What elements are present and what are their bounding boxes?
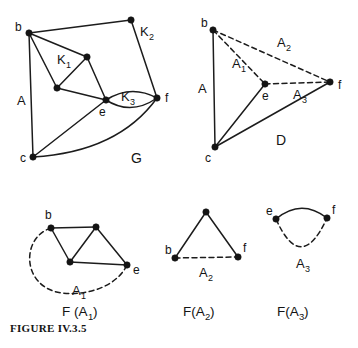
svg-text:): ) — [93, 304, 98, 319]
svg-text:1: 1 — [66, 60, 71, 70]
edge-b-c — [29, 33, 33, 157]
edge-b-k2top — [29, 20, 131, 33]
region-label-a1-fa1: A 1 — [72, 283, 86, 301]
svg-text:A: A — [296, 256, 305, 271]
panel-label-d: D — [276, 132, 286, 148]
vertex-fa1-e — [124, 262, 130, 268]
region-label-a2-fa2: A 2 — [199, 265, 213, 283]
svg-text:3: 3 — [130, 97, 135, 107]
vertex-d-e — [262, 81, 268, 87]
svg-text:F(A: F(A — [277, 304, 299, 319]
svg-text:A: A — [277, 35, 286, 50]
vertex-k1r — [84, 54, 90, 60]
panel-fa3: e f A 3 F(A 3 ) — [266, 203, 336, 322]
svg-text:1: 1 — [241, 64, 246, 74]
panel-label-fa1: F (A 1 ) — [62, 304, 98, 322]
edge-fa1-top-mid — [70, 227, 96, 262]
svg-text:F(A: F(A — [183, 304, 205, 319]
vertex-c — [30, 154, 36, 160]
panel-g: b e f c K 1 K 2 K 3 A G — [15, 17, 169, 166]
edge-d-b-c — [213, 30, 215, 147]
edge-k1r-e — [87, 57, 106, 100]
vertex-b — [26, 30, 32, 36]
svg-text:A: A — [232, 56, 241, 71]
edge-d-e-f-dashed — [265, 82, 330, 84]
region-label-a1-d: A 1 — [232, 56, 246, 74]
svg-text:K: K — [121, 89, 130, 104]
edge-fa2-apex-f — [206, 212, 238, 257]
svg-text:): ) — [304, 304, 309, 319]
region-label-a-g: A — [17, 93, 26, 108]
svg-text:): ) — [210, 304, 215, 319]
panel-label-fa2: F(A 2 ) — [183, 304, 215, 322]
svg-text:K: K — [140, 24, 149, 39]
figure-container: b e f c K 1 K 2 K 3 A G — [0, 0, 358, 348]
svg-text:3: 3 — [302, 95, 307, 105]
svg-text:2: 2 — [286, 43, 291, 53]
vertex-label-fa1-b: b — [45, 208, 52, 222]
vertex-fa2-apex — [203, 209, 209, 215]
vertex-fa1-top — [93, 224, 99, 230]
figure-caption: FIGURE IV.3.5 — [10, 322, 87, 334]
vertex-label-fa3-e: e — [266, 204, 273, 218]
edge-b-k1l — [29, 33, 57, 88]
vertex-fa2-f — [235, 254, 241, 260]
panel-fa1: b e A 1 F (A 1 ) — [30, 208, 140, 322]
edge-fa1-mid-e — [70, 262, 127, 265]
edge-fa2-apex-b — [175, 212, 206, 258]
svg-text:K: K — [57, 52, 66, 67]
edge-fa1-b-mid — [51, 228, 70, 262]
edge-k1l-e — [57, 88, 106, 100]
vertex-k2top — [128, 17, 134, 23]
figure-drawing: b e f c K 1 K 2 K 3 A G — [0, 0, 358, 348]
vertex-k1l — [54, 85, 60, 91]
vertex-f — [154, 95, 160, 101]
svg-text:2: 2 — [149, 32, 154, 42]
vertex-label-fa1-e: e — [133, 263, 140, 277]
vertex-d-c — [212, 144, 218, 150]
region-label-a-d: A — [198, 81, 207, 96]
vertex-label-e: e — [99, 105, 106, 119]
svg-text:2: 2 — [208, 273, 213, 283]
panel-d: b e f c A A 1 A 2 A 3 D — [198, 16, 342, 165]
edge-fa3-e-f-dashed-arc — [276, 218, 327, 247]
panel-label-fa3: F(A 3 ) — [277, 304, 309, 322]
vertex-label-fa2-b: b — [165, 243, 172, 257]
vertex-fa2-b — [172, 255, 178, 261]
region-label-k1: K 1 — [57, 52, 71, 70]
edge-c-e — [33, 100, 106, 157]
region-label-a3-fa3: A 3 — [296, 256, 310, 274]
vertex-fa3-f — [324, 215, 330, 221]
vertex-label-d-e: e — [262, 89, 269, 103]
vertex-label-b: b — [15, 20, 22, 34]
svg-text:1: 1 — [81, 291, 86, 301]
svg-text:A: A — [72, 283, 81, 298]
vertex-d-b — [210, 27, 216, 33]
vertex-label-f: f — [165, 91, 169, 105]
vertex-label-c: c — [20, 151, 26, 165]
vertex-fa1-b — [48, 225, 54, 231]
vertex-label-d-c: c — [205, 151, 211, 165]
vertex-label-d-f: f — [338, 78, 342, 92]
vertex-fa3-e — [273, 216, 279, 222]
vertex-fa1-mid — [67, 259, 73, 265]
panel-label-g: G — [131, 150, 142, 166]
edge-fa1-top-e — [96, 227, 127, 265]
svg-text:F (A: F (A — [62, 304, 88, 319]
vertex-label-d-b: b — [201, 16, 208, 30]
edge-fa3-e-f-solid-arc — [276, 208, 327, 219]
panel-fa2: b f A 2 F(A 2 ) — [165, 209, 247, 322]
vertex-d-f — [327, 79, 333, 85]
svg-text:3: 3 — [305, 264, 310, 274]
edge-d-b-f-dashed — [213, 30, 330, 82]
edge-fa1-b-top — [51, 227, 96, 228]
vertex-label-fa3-f: f — [332, 203, 336, 217]
region-label-k2: K 2 — [140, 24, 154, 42]
svg-text:A: A — [293, 87, 302, 102]
region-label-a2-d: A 2 — [277, 35, 291, 53]
vertex-e — [103, 97, 109, 103]
edge-d-c-e — [215, 84, 265, 147]
edge-d-c-f — [215, 82, 330, 147]
vertex-label-fa2-f: f — [243, 241, 247, 255]
svg-text:A: A — [199, 265, 208, 280]
